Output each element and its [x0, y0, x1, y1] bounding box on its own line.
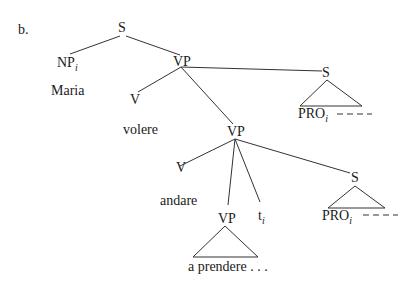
- word-volere: volere: [123, 122, 158, 137]
- triangle-upper: [300, 80, 362, 106]
- word-maria: Maria: [51, 83, 85, 98]
- edge-s-vp: [126, 36, 180, 55]
- triangle-lower: [328, 186, 385, 208]
- edge-vp1-s: [181, 67, 322, 71]
- figure-label: b.: [18, 22, 29, 37]
- node-vp3: VP: [218, 211, 236, 226]
- node-np: NPi: [57, 55, 78, 73]
- node-root-s: S: [118, 20, 126, 35]
- word-andare: andare: [160, 193, 197, 208]
- edge-vp2-vp3: [228, 139, 235, 205]
- node-v2: V: [176, 160, 186, 175]
- node-trace: ti: [258, 208, 265, 226]
- phrase-a-prendere: a prendere . . .: [188, 259, 268, 274]
- node-pro-upper: PROi: [298, 106, 328, 124]
- edge-vp2-v: [180, 139, 235, 166]
- edge-vp1-vp2: [181, 67, 233, 124]
- node-s-lower: S: [351, 170, 359, 185]
- edge-vp1-v: [138, 67, 181, 92]
- edge-vp2-t: [235, 139, 260, 202]
- node-vp2: VP: [227, 124, 245, 139]
- syntax-tree: b. S NPi Maria VP V volere S PROi VP V a…: [0, 0, 411, 284]
- edge-s-np: [70, 36, 120, 54]
- triangle-vp3: [193, 226, 258, 257]
- node-s-upper: S: [322, 65, 330, 80]
- node-v1: V: [130, 92, 140, 107]
- edge-vp2-s: [235, 139, 350, 173]
- node-pro-lower: PROi: [322, 208, 352, 226]
